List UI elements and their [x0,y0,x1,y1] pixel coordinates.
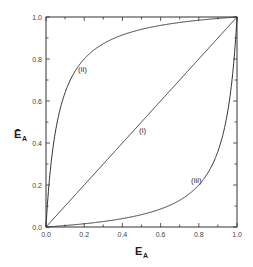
x-tick-4: 0.8 [194,231,204,238]
y-tick-3: 0.6 [32,98,42,105]
x-tick-3: 0.6 [156,231,166,238]
y-tick-4: 0.8 [32,56,42,63]
y-axis-subscript: A [22,135,27,142]
y-tick-1: 0.2 [32,182,42,189]
y-tick-0: 0.0 [32,224,42,231]
x-tick-5: 1.0 [232,231,242,238]
chart: 0.0 0.2 0.4 0.6 0.8 1.0 0.0 0.2 0.4 0.6 … [0,0,253,267]
x-axis-subscript: A [143,252,148,259]
x-tick-1: 0.2 [79,231,89,238]
y-tick-5: 1.0 [32,14,42,21]
y-axis-title: Ē [14,128,21,140]
x-axis-title: E [135,245,142,257]
x-tick-2: 0.4 [118,231,128,238]
curve-i [46,17,237,227]
curve-label-iii: (iii) [191,176,202,185]
curves [46,17,237,227]
curve-label-ii: (ii) [78,65,87,74]
x-tick-0: 0.0 [41,231,51,238]
curve-label-i: (i) [139,126,146,135]
y-tick-2: 0.4 [32,140,42,147]
